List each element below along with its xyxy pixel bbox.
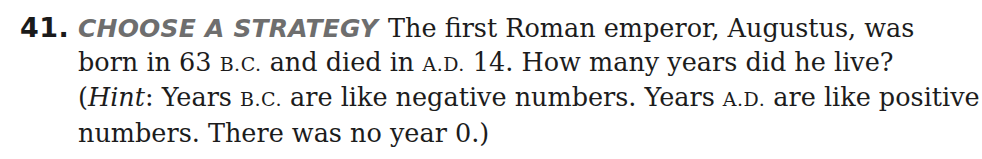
era-ad: A.D. [422, 53, 464, 75]
text-segment: : Years [145, 82, 240, 112]
text-segment: born in 63 [78, 47, 220, 77]
era-ad: A.D. [723, 88, 765, 110]
exercise-text: CHOOSE A STRATEGYThe first Roman emperor… [78, 12, 978, 150]
strategy-heading: CHOOSE A STRATEGY [78, 14, 378, 43]
text-line-2: born in 63 B.C. and died in A.D. 14. How… [78, 46, 978, 82]
text-line-3: (Hint: Years B.C. are like negative numb… [78, 81, 978, 117]
era-bc: B.C. [240, 88, 282, 110]
text-segment: The first Roman emperor, Augustus, was [388, 13, 914, 43]
text-line-4: numbers. There was no year 0.) [78, 117, 978, 151]
exercise-41: 41. CHOOSE A STRATEGYThe first Roman emp… [0, 0, 982, 159]
text-segment: and died in [262, 47, 423, 77]
text-segment: numbers. There was no year 0.) [78, 118, 489, 148]
text-segment: are like positive [765, 82, 979, 112]
hint-label: Hint [88, 82, 145, 112]
text-line-1: CHOOSE A STRATEGYThe first Roman emperor… [78, 12, 978, 46]
exercise-number: 41. [20, 12, 69, 43]
text-segment: are like negative numbers. Years [282, 82, 723, 112]
text-segment: 14. How many years did he live? [465, 47, 894, 77]
text-segment: ( [78, 82, 88, 112]
era-bc: B.C. [220, 53, 262, 75]
